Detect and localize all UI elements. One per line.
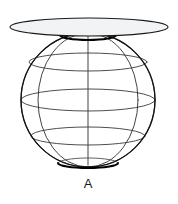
sphere-plane-diagram: A	[0, 0, 178, 204]
meridian-lines	[21, 33, 155, 167]
intersecting-plane	[10, 18, 168, 36]
plane-disk	[10, 18, 168, 36]
figure-container: A	[0, 0, 178, 204]
point-label-a: A	[84, 176, 93, 191]
wireframe-sphere	[21, 30, 155, 168]
